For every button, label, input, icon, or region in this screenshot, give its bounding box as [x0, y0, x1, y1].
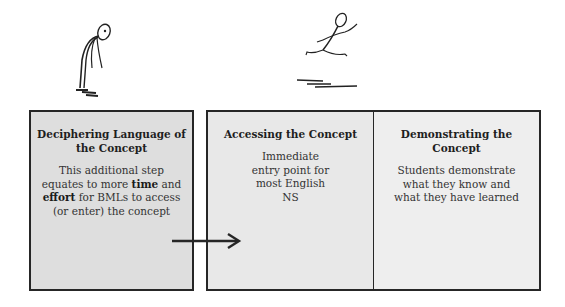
accessing-concept-box: Accessing the Concept Immediate entry po…	[206, 110, 374, 291]
demonstrating-concept-box: Demonstrating the Concept Students demon…	[373, 110, 541, 291]
leaping-stick-figure-icon	[293, 10, 373, 95]
box-title: Demonstrating the Concept	[374, 127, 539, 155]
deciphering-language-box: Deciphering Language of the Concept This…	[29, 110, 194, 291]
tired-stick-figure-icon	[68, 20, 118, 100]
box-body: This additional step equates to more tim…	[31, 164, 192, 218]
emphasis-time: time	[132, 178, 159, 190]
box-body: Immediate entry point for most English N…	[208, 150, 373, 204]
box-title: Accessing the Concept	[208, 127, 373, 141]
box-body: Students demonstrate what they know and …	[374, 164, 539, 205]
emphasis-effort: effort	[43, 191, 76, 203]
box-title: Deciphering Language of the Concept	[31, 127, 192, 155]
right-arrow-icon	[170, 232, 245, 250]
